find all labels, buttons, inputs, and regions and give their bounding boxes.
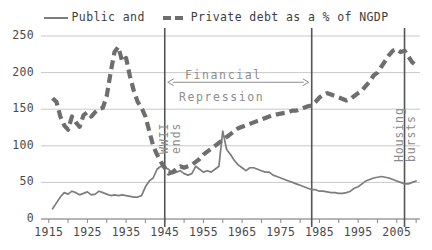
x-tick-label: 1995 — [338, 227, 378, 239]
x-tick-label: 1955 — [183, 227, 223, 239]
annotation-housing-line2: bursts — [406, 115, 418, 162]
y-tick-label: 50 — [0, 176, 34, 188]
x-tick-label: 1985 — [299, 227, 339, 239]
y-tick-label: 0 — [0, 213, 34, 225]
chart-canvas — [0, 0, 432, 250]
y-tick-label: 250 — [0, 30, 34, 42]
annotation-wwii-line2: ends — [171, 123, 183, 154]
x-tick-label: 1935 — [106, 227, 146, 239]
x-tick-label: 1975 — [261, 227, 301, 239]
x-tick-label: 1915 — [29, 227, 69, 239]
series-public-debt — [53, 131, 417, 209]
series-private-debt — [53, 47, 417, 174]
y-tick-label: 200 — [0, 67, 34, 79]
plot-area — [0, 0, 432, 250]
x-tick-label: 2005 — [377, 227, 417, 239]
x-tick-label: 1945 — [145, 227, 185, 239]
y-tick-label: 100 — [0, 140, 34, 152]
x-tick-label: 1925 — [67, 227, 107, 239]
y-tick-label: 150 — [0, 103, 34, 115]
annotation-financial-line2: Repression — [179, 92, 264, 104]
debt-to-ngdp-chart: Public and Private debt as a % of NGDP 0… — [0, 0, 432, 250]
x-tick-label: 1965 — [222, 227, 262, 239]
annotation-financial-line1: Financial — [185, 70, 262, 82]
